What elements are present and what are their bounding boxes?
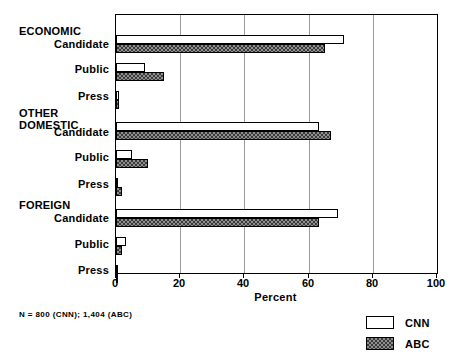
gridline-80 [373, 15, 374, 273]
tick-label-60: 60 [288, 277, 328, 289]
tick-label-40: 40 [223, 277, 263, 289]
row-label-other-domestic-candidate: Candidate [54, 126, 109, 138]
bar-abc-other-domestic-public[interactable] [116, 159, 148, 168]
legend: CNN ABC [366, 312, 430, 354]
row-label-foreign-public: Public [75, 238, 109, 250]
bar-abc-other-domestic-candidate[interactable] [116, 131, 331, 140]
row-label-other-domestic-press: Press [78, 178, 109, 190]
bar-cnn-foreign-press[interactable] [116, 265, 118, 274]
row-label-foreign-press: Press [78, 264, 109, 276]
legend-swatch-cnn-icon [366, 316, 394, 329]
bar-abc-other-domestic-press[interactable] [116, 187, 122, 196]
bar-cnn-economic-press[interactable] [116, 91, 119, 100]
row-label-other-domestic-public: Public [75, 151, 109, 163]
legend-swatch-abc-icon [366, 337, 394, 350]
row-label-economic-candidate: Candidate [54, 38, 109, 50]
group-heading-economic: ECONOMIC [19, 25, 81, 37]
group-heading-other-line1: OTHER [19, 107, 59, 119]
bar-cnn-foreign-candidate[interactable] [116, 209, 338, 218]
tick-label-0: 0 [95, 277, 135, 289]
tick-label-100: 100 [416, 277, 456, 289]
bar-cnn-economic-candidate[interactable] [116, 35, 344, 44]
plot-area [115, 14, 438, 274]
bar-cnn-other-domestic-candidate[interactable] [116, 122, 319, 131]
bar-chart-figure: ECONOMIC Candidate Public Press OTHER DO… [0, 0, 458, 364]
gridline-60 [309, 15, 310, 273]
group-heading-foreign: FOREIGN [19, 199, 71, 211]
row-label-economic-public: Public [75, 63, 109, 75]
legend-label-abc: ABC [405, 338, 430, 350]
bar-cnn-economic-public[interactable] [116, 63, 145, 72]
bar-abc-economic-press[interactable] [116, 100, 119, 109]
row-label-foreign-candidate: Candidate [54, 212, 109, 224]
bar-abc-foreign-public[interactable] [116, 246, 122, 255]
legend-label-cnn: CNN [405, 317, 430, 329]
tick-label-80: 80 [352, 277, 392, 289]
x-axis-title: Percent [115, 291, 436, 303]
bar-cnn-foreign-public[interactable] [116, 237, 126, 246]
legend-item-abc[interactable]: ABC [366, 333, 430, 354]
legend-item-cnn[interactable]: CNN [366, 312, 430, 333]
gridline-40 [244, 15, 245, 273]
bar-cnn-other-domestic-public[interactable] [116, 150, 132, 159]
sample-size-footnote: N = 800 (CNN); 1,404 (ABC) [19, 310, 132, 319]
bar-cnn-other-domestic-press[interactable] [116, 178, 118, 187]
bar-abc-foreign-candidate[interactable] [116, 218, 319, 227]
bar-abc-economic-public[interactable] [116, 72, 164, 81]
row-label-economic-press: Press [78, 90, 109, 102]
tick-label-20: 20 [159, 277, 199, 289]
bar-abc-economic-candidate[interactable] [116, 44, 325, 53]
gridline-20 [180, 15, 181, 273]
